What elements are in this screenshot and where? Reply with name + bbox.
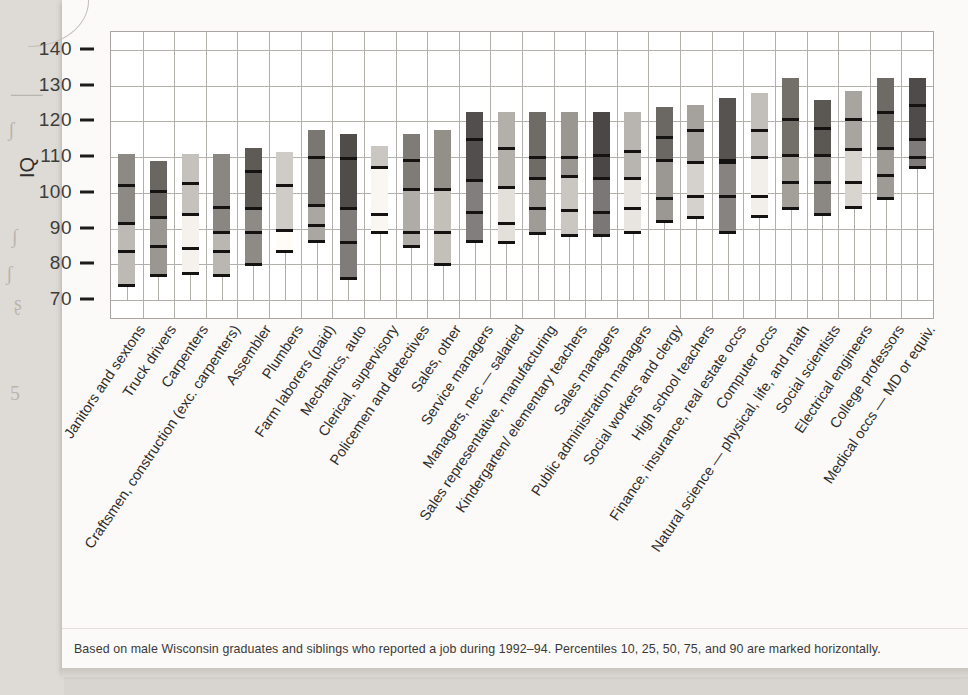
y-tick-mark [80, 190, 94, 193]
bar-lower-body [814, 155, 831, 214]
percentile-marker-p50 [245, 207, 262, 210]
bar-upper-body [656, 107, 673, 161]
percentile-marker-p50 [276, 229, 293, 232]
x-gridline [901, 32, 902, 318]
x-gridline [585, 32, 586, 318]
percentile-marker-p50 [150, 216, 167, 219]
y-tick-label: 80 [50, 252, 72, 274]
bar-lower-body [845, 150, 862, 207]
iq-by-occupation-figure: 708090100110120130140 IQ Janitors and se… [0, 0, 968, 695]
y-tick-mark [80, 226, 94, 229]
bar-lower-body [624, 179, 641, 233]
y-tick-mark [80, 119, 94, 122]
percentile-marker-p75 [909, 104, 926, 107]
y-tick-mark [80, 262, 94, 265]
percentile-marker-p75 [624, 150, 641, 153]
percentile-marker-p10 [656, 220, 673, 223]
bar-upper-body [719, 98, 736, 162]
percentile-marker-p25 [719, 195, 736, 198]
bar-lower-body [403, 189, 420, 246]
bar-lower-body [276, 230, 293, 251]
bar-lower-body [498, 188, 515, 243]
percentile-marker-p10 [403, 245, 420, 248]
percentile-marker-p10 [276, 250, 293, 253]
percentile-marker-p75 [751, 129, 768, 132]
percentile-marker-p10 [593, 234, 610, 237]
percentile-marker-p50 [529, 177, 546, 180]
percentile-marker-p25 [656, 197, 673, 200]
percentile-marker-p75 [340, 157, 357, 160]
percentile-marker-p75 [434, 188, 451, 191]
y-tick-label: 140 [39, 38, 72, 60]
y-tick-label: 100 [39, 181, 72, 203]
bar-upper-body [751, 93, 768, 157]
percentile-marker-p75 [403, 159, 420, 162]
bar-upper-body [624, 112, 641, 178]
y-tick-label: 90 [50, 217, 72, 239]
bar-upper-body [498, 112, 515, 187]
percentile-marker-p75 [529, 156, 546, 159]
percentile-marker-p25 [340, 241, 357, 244]
y-tick-label: 70 [50, 288, 72, 310]
percentile-marker-p50 [751, 156, 768, 159]
percentile-marker-p25 [782, 181, 799, 184]
x-gridline [648, 32, 649, 318]
y-tick-label: 110 [40, 145, 72, 167]
percentile-marker-p25 [909, 156, 926, 159]
percentile-marker-p10 [118, 284, 135, 287]
percentile-marker-p10 [782, 207, 799, 210]
percentile-marker-p75 [276, 184, 293, 187]
percentile-marker-p25 [751, 195, 768, 198]
percentile-marker-p25 [624, 207, 641, 210]
percentile-marker-p25 [150, 245, 167, 248]
percentile-marker-p10 [182, 272, 199, 275]
percentile-marker-p25 [213, 250, 230, 253]
x-gridline [459, 32, 460, 318]
bar-lower-body [118, 223, 135, 286]
bar-lower-body [245, 209, 262, 264]
bar-upper-body [561, 112, 578, 176]
percentile-marker-p50 [593, 177, 610, 180]
percentile-marker-p50 [782, 154, 799, 157]
percentile-marker-p25 [814, 181, 831, 184]
x-gridline [206, 32, 207, 318]
percentile-marker-p25 [118, 250, 135, 253]
percentile-marker-p50 [656, 159, 673, 162]
percentile-marker-p75 [308, 156, 325, 159]
bar-lower-body [561, 177, 578, 236]
percentile-marker-p75 [877, 111, 894, 114]
x-gridline [743, 32, 744, 318]
percentile-marker-p75 [245, 170, 262, 173]
percentile-marker-p10 [498, 241, 515, 244]
bar-upper-body [371, 146, 388, 167]
percentile-marker-p10 [340, 277, 357, 280]
y-tick-mark [80, 83, 94, 86]
bar-lower-body [434, 189, 451, 264]
percentile-marker-p75 [561, 156, 578, 159]
bar-upper-body [434, 130, 451, 189]
percentile-marker-p25 [593, 211, 610, 214]
y-tick-mark [80, 155, 94, 158]
percentile-marker-p75 [498, 147, 515, 150]
percentile-marker-p25 [561, 209, 578, 212]
bar-upper-body [340, 134, 357, 209]
bar-lower-body [687, 162, 704, 217]
percentile-marker-p50 [403, 188, 420, 191]
y-tick-label: 130 [39, 74, 72, 96]
percentile-marker-p75 [782, 118, 799, 121]
x-gridline [712, 32, 713, 318]
bar-upper-body [245, 148, 262, 209]
x-gridline [617, 32, 618, 318]
bar-upper-body [276, 152, 293, 231]
percentile-marker-p50 [909, 138, 926, 141]
bar-lower-body [909, 139, 926, 168]
percentile-marker-p75 [687, 129, 704, 132]
figure-caption: Based on male Wisconsin graduates and si… [74, 642, 954, 656]
percentile-marker-p25 [434, 231, 451, 234]
percentile-marker-p10 [529, 232, 546, 235]
x-gridline [332, 32, 333, 318]
y-tick-label: 120 [39, 109, 72, 131]
percentile-marker-p10 [845, 206, 862, 209]
percentile-marker-p75 [845, 118, 862, 121]
bar-upper-body [909, 78, 926, 139]
